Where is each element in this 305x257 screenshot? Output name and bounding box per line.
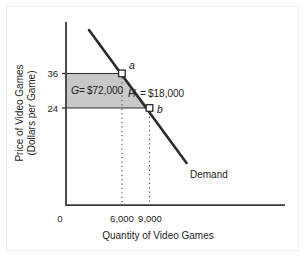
area-g-equals: = — [79, 85, 85, 96]
area-g-value: $72,000 — [87, 85, 124, 96]
area-h-equals: = — [140, 88, 146, 99]
x-tick-label-9000: 9,000 — [138, 213, 162, 224]
chart-figure: a b G = $72,000 H = $18,000 Demand 36 24… — [0, 0, 305, 257]
point-b-marker — [146, 105, 153, 112]
point-a-marker — [119, 70, 126, 77]
point-b-label: b — [157, 103, 163, 115]
x-tick-label-6000: 6,000 — [110, 213, 134, 224]
x-origin-label: 0 — [57, 213, 62, 224]
y-tick-label-36: 36 — [47, 68, 58, 79]
economics-demand-chart: a b G = $72,000 H = $18,000 Demand 36 24… — [0, 0, 305, 257]
y-axis-title-line1: Price of Video Games — [14, 64, 25, 161]
point-a-label: a — [129, 59, 135, 71]
area-g-symbol: G — [71, 84, 79, 96]
y-tick-label-24: 24 — [47, 103, 58, 114]
y-axis-title-line2: (Dollars per Game) — [26, 70, 37, 155]
x-axis-title: Quantity of Video Games — [102, 230, 214, 241]
area-h-symbol: H — [128, 87, 136, 99]
demand-curve-label: Demand — [190, 169, 228, 180]
area-h-value: $18,000 — [148, 88, 185, 99]
